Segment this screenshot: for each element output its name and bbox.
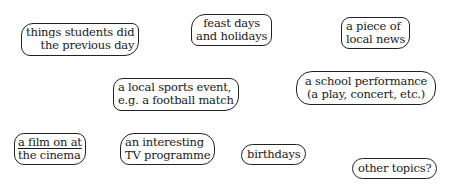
bubble-line: TV programme [125,149,210,162]
bubble-line: birthdays [247,148,300,161]
bubble-birthdays: birthdays [241,144,306,165]
bubble-line: the cinema [18,149,82,162]
bubble-local-news: a piece of local news [341,17,410,49]
bubble-other-topics: other topics? [352,158,437,179]
bubble-line: (a play, concert, etc.) [305,88,427,101]
topic-bubbles-diagram: things students did the previous day fea… [0,0,450,184]
bubble-line: e.g. a football match [118,94,234,107]
bubble-feast-days: feast days and holidays [191,14,272,46]
bubble-film-at-cinema: a film on at the cinema [14,133,86,165]
bubble-local-sports-event: a local sports event, e.g. a football ma… [113,78,239,111]
bubble-line: other topics? [358,162,431,175]
bubble-school-performance: a school performance (a play, concert, e… [296,71,436,105]
bubble-things-students-did: things students did the previous day [21,23,139,56]
bubble-line: local news [346,33,405,46]
bubble-line: and holidays [196,30,267,43]
bubble-line: the previous day [26,39,134,52]
bubble-tv-programme: an interesting TV programme [120,133,215,165]
